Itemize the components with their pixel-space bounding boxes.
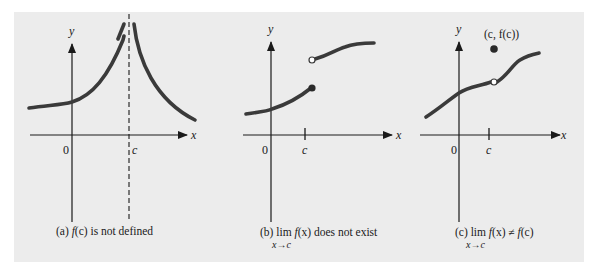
- origin-label: 0: [262, 143, 268, 157]
- open-dot-icon: [491, 79, 497, 85]
- function-curve: [426, 53, 539, 117]
- c-label: c: [302, 143, 308, 157]
- x-axis-label: x: [395, 128, 402, 142]
- curve-right-branch: [134, 24, 195, 120]
- filled-dot-icon: [490, 45, 498, 53]
- discontinuity-figure: y x 0 c (a) f(c) is not defined y x 0 c …: [0, 0, 600, 272]
- filled-dot-icon: [308, 84, 315, 91]
- graph-b: y x 0 c (b) lim f(x) does not exist x→c: [243, 22, 402, 250]
- curve-lower-branch: [246, 88, 311, 114]
- point-label: (c, f(c)): [484, 28, 519, 41]
- graph-a: y x 0 c (a) f(c) is not defined: [29, 14, 197, 238]
- origin-label: 0: [63, 143, 69, 157]
- open-dot-icon: [309, 57, 315, 63]
- x-axis-label: x: [190, 128, 197, 142]
- curve-upper-branch: [315, 43, 374, 59]
- caption-c-subscript: x→c: [465, 239, 485, 250]
- caption-a: (a) f(c) is not defined: [56, 225, 153, 238]
- c-label: c: [132, 143, 138, 157]
- x-axis-label: x: [560, 128, 567, 142]
- origin-label: 0: [451, 143, 457, 157]
- caption-b: (b) lim f(x) does not exist: [260, 226, 378, 239]
- caption-c: (c) lim f(x) ≠ f(c): [455, 226, 534, 239]
- y-axis-label: y: [68, 24, 75, 38]
- y-axis-label: y: [455, 22, 462, 36]
- c-label: c: [486, 143, 492, 157]
- graph-c: (c, f(c)) y x 0 c (c) lim f(x) ≠ f(c) x→…: [420, 22, 567, 250]
- curve-left-branch: [29, 36, 124, 108]
- y-axis-label: y: [267, 22, 274, 36]
- caption-b-subscript: x→c: [271, 239, 291, 250]
